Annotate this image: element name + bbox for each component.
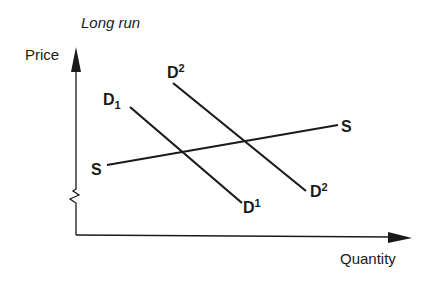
supply-label-left: S [91,162,102,178]
supply-curve [107,125,338,165]
x-axis-label: Quantity [340,251,396,266]
supply-label-right: S [341,119,352,135]
demand-1-label-bottom-sup: 1 [255,197,261,209]
demand-2-label-bottom-sup: 2 [322,181,328,193]
x-axis [76,232,412,243]
demand-2-label-top-sup: 2 [179,62,185,74]
supply-demand-diagram [0,0,431,282]
x-axis-arrow-icon [388,232,412,243]
demand-1-label-top-sub: 1 [115,99,121,111]
y-axis-arrow-icon [71,47,81,72]
demand-1-label-bottom-base: D [243,199,255,216]
demand-1-label-top-base: D [103,91,115,108]
y-axis [70,47,81,235]
demand-curve-2 [173,83,306,191]
demand-1-label-bottom: D1 [243,198,261,216]
demand-2-label-top: D2 [167,63,185,81]
demand-curve-1 [130,107,242,203]
demand-1-label-top: D1 [103,92,121,111]
demand-2-label-top-base: D [167,64,179,81]
y-axis-label: Price [25,47,59,62]
demand-2-label-bottom: D2 [310,182,328,200]
chart-title: Long run [81,15,140,30]
demand-2-label-bottom-base: D [310,183,322,200]
